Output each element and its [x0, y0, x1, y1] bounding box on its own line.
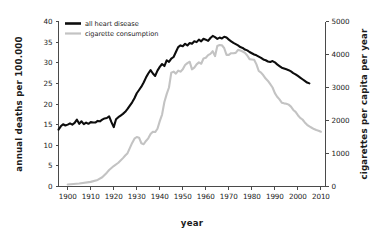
legend: all heart disease cigarette consumption — [65, 20, 158, 38]
y2-tick-label: 5000 — [332, 17, 350, 26]
y-tick-label: 30 — [44, 58, 53, 67]
x-tick-label: 1970 — [220, 192, 238, 201]
chart-canvas: 0510152025303540 010002000300040005000 1… — [0, 0, 386, 245]
x-tick-label: 1990 — [266, 192, 284, 201]
chart-figure: 0510152025303540 010002000300040005000 1… — [0, 0, 386, 245]
series-line-cigarette-consumption — [68, 45, 321, 185]
x-tick-label: 1910 — [82, 192, 100, 201]
legend-label-cigarette-consumption: cigarette consumption — [85, 30, 158, 38]
y2-tick-label: 1000 — [332, 149, 350, 158]
x-tick-label: 2000 — [289, 192, 307, 201]
y-tick-label: 35 — [44, 38, 53, 47]
x-tick-label: 1930 — [128, 192, 146, 201]
legend-label-all-heart-disease: all heart disease — [85, 20, 139, 28]
x-axis-ticks: 1900191019201930194019501960197019801990… — [59, 187, 331, 201]
x-tick-label: 1980 — [243, 192, 261, 201]
x-tick-label: 1950 — [174, 192, 192, 201]
y2-axis-title: cigarettes per capita per year — [359, 28, 369, 180]
y-tick-label: 20 — [44, 100, 53, 109]
x-axis-title: year — [181, 218, 204, 228]
x-tick-label: 1920 — [105, 192, 123, 201]
y2-tick-label: 2000 — [332, 116, 350, 125]
y-tick-label: 15 — [44, 120, 53, 129]
series-group — [59, 36, 321, 185]
series-line-all-heart-disease — [59, 36, 310, 130]
y2-tick-label: 3000 — [332, 83, 350, 92]
y-tick-label: 25 — [44, 79, 53, 88]
y-tick-label: 5 — [48, 161, 52, 170]
y-tick-label: 10 — [44, 141, 53, 150]
y-axis-ticks: 0510152025303540 — [44, 17, 59, 191]
y2-tick-label: 4000 — [332, 50, 350, 59]
y-tick-label: 0 — [48, 182, 53, 191]
x-tick-label: 1940 — [151, 192, 169, 201]
x-tick-label: 2010 — [312, 192, 330, 201]
y-tick-label: 40 — [44, 17, 53, 26]
y2-tick-label: 0 — [332, 182, 337, 191]
x-tick-label: 1900 — [59, 192, 77, 201]
x-tick-label: 1960 — [197, 192, 215, 201]
y-axis-title: annual deaths per 100.000 — [14, 36, 24, 171]
y2-axis-ticks: 010002000300040005000 — [326, 17, 350, 191]
